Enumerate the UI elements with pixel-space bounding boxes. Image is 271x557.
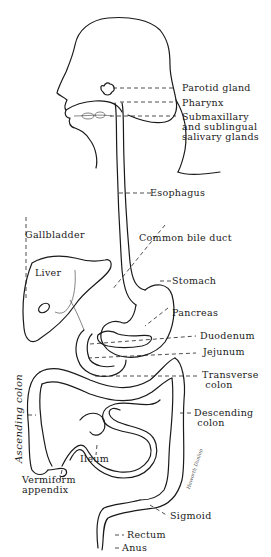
label-anus: Anus <box>122 543 147 553</box>
label-descending-colon: Descending colon <box>194 408 254 428</box>
label-duodenum: Duodenum <box>200 331 255 341</box>
label-transverse-colon: Transverse colon <box>202 370 259 390</box>
ascending-colon <box>28 372 49 475</box>
label-salivary-glands: Submaxillary and sublingual salivary gla… <box>182 112 259 142</box>
label-gallbladder: Gallbladder <box>25 230 85 240</box>
label-vermiform-appendix: Vermiform appendix <box>22 475 76 495</box>
label-jejunum: Jejunum <box>203 347 245 357</box>
label-liver: Liver <box>35 268 61 278</box>
label-stomach: Stomach <box>172 276 216 286</box>
pancreas <box>97 331 151 347</box>
label-parotid-gland: Parotid gland <box>182 83 251 93</box>
label-esophagus: Esophagus <box>150 188 205 198</box>
label-ascending-colon: Ascending colon <box>13 374 24 463</box>
label-pharynx: Pharynx <box>182 98 224 108</box>
descending-colon <box>155 358 185 508</box>
label-common-bile-duct: Common bile duct <box>139 233 232 243</box>
label-ileum: Ileum <box>80 454 109 464</box>
small-intestine <box>62 400 160 472</box>
label-rectum: Rectum <box>127 530 166 540</box>
label-pancreas: Pancreas <box>172 308 218 318</box>
label-sigmoid: Sigmoid <box>170 511 212 521</box>
